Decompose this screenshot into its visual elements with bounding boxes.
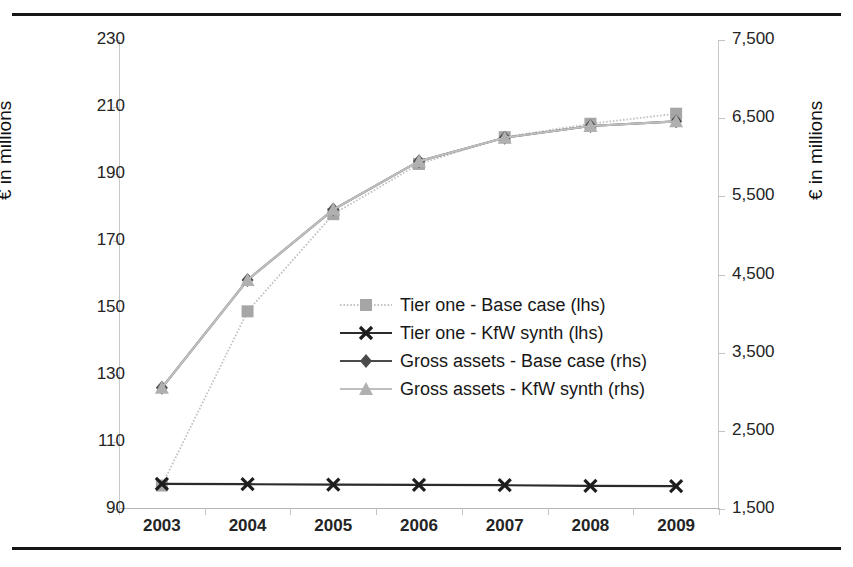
- right-axis-tick: [718, 196, 725, 197]
- legend-label: Gross assets - KfW synth (rhs): [400, 379, 645, 400]
- chart-figure: € in millions € in millions 230210190170…: [0, 0, 853, 567]
- legend-item-2[interactable]: Gross assets - Base case (rhs): [338, 347, 647, 375]
- legend-item-1[interactable]: Tier one - KfW synth (lhs): [338, 319, 647, 347]
- legend-key-x-icon: [338, 323, 394, 343]
- legend-item-0[interactable]: Tier one - Base case (lhs): [338, 291, 647, 319]
- x-axis-tick-label: 2008: [555, 516, 625, 536]
- legend-key-square-icon: [338, 295, 394, 315]
- legend-label: Tier one - KfW synth (lhs): [400, 323, 603, 344]
- left-axis-tick-label: 150: [73, 297, 125, 317]
- right-axis-tick-label: 6,500: [732, 107, 796, 127]
- left-axis-tick-label: 210: [73, 96, 125, 116]
- left-axis-title: € in millions: [0, 101, 16, 200]
- legend-label: Gross assets - Base case (rhs): [400, 351, 647, 372]
- right-axis-tick: [718, 431, 725, 432]
- x-axis-tick-label: 2007: [470, 516, 540, 536]
- plot-area: [119, 40, 719, 509]
- x-axis-line: [119, 508, 719, 509]
- data-point-square: [242, 305, 254, 317]
- x-axis-tick-label: 2005: [298, 516, 368, 536]
- left-axis-tick-label: 110: [73, 431, 125, 451]
- right-axis-title: € in millions: [805, 101, 827, 200]
- left-axis-tick-label: 190: [73, 163, 125, 183]
- left-axis-tick-label: 90: [73, 498, 125, 518]
- series-layer: [119, 40, 719, 509]
- x-axis-tick-label: 2003: [127, 516, 197, 536]
- series-1: [156, 478, 682, 492]
- x-axis-tick: [633, 508, 634, 515]
- x-axis-tick: [462, 508, 463, 515]
- left-axis-tick-label: 170: [73, 230, 125, 250]
- legend: Tier one - Base case (lhs)Tier one - KfW…: [338, 291, 647, 403]
- right-axis-tick-label: 3,500: [732, 342, 796, 362]
- right-axis-tick-label: 4,500: [732, 264, 796, 284]
- right-axis-tick: [718, 118, 725, 119]
- x-axis-tick: [719, 508, 720, 515]
- x-axis-tick-label: 2009: [641, 516, 711, 536]
- right-axis-tick-label: 5,500: [732, 185, 796, 205]
- legend-label: Tier one - Base case (lhs): [400, 295, 605, 316]
- x-axis-tick-label: 2004: [213, 516, 283, 536]
- x-axis-tick: [290, 508, 291, 515]
- right-axis-tick-label: 1,500: [732, 498, 796, 518]
- right-axis-tick: [718, 40, 725, 41]
- legend-key-diamond-icon: [338, 351, 394, 371]
- right-axis-tick-label: 2,500: [732, 420, 796, 440]
- x-axis-tick: [548, 508, 549, 515]
- legend-item-3[interactable]: Gross assets - KfW synth (rhs): [338, 375, 647, 403]
- x-axis-tick-label: 2006: [384, 516, 454, 536]
- right-axis-tick: [718, 275, 725, 276]
- bottom-rule: [12, 547, 841, 550]
- top-cropped-text: [22, 0, 52, 9]
- right-axis-tick-label: 7,500: [732, 29, 796, 49]
- x-axis-tick: [376, 508, 377, 515]
- left-axis-tick-label: 130: [73, 364, 125, 384]
- top-rule: [12, 13, 841, 16]
- right-axis-tick: [718, 353, 725, 354]
- legend-key-triangle-icon: [338, 379, 394, 399]
- x-axis-tick: [205, 508, 206, 515]
- left-axis-tick-label: 230: [73, 29, 125, 49]
